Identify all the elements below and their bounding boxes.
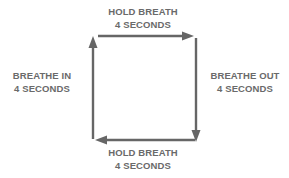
- step-action: HOLD BREATH: [108, 6, 178, 19]
- step-action: BREATHE OUT: [210, 70, 279, 83]
- arrow-up-icon: [89, 36, 98, 48]
- arrow-left-icon: [95, 136, 107, 145]
- step-label-right: BREATHE OUT 4 SECONDS: [210, 70, 279, 95]
- step-action: HOLD BREATH: [108, 147, 178, 160]
- step-label-bottom: HOLD BREATH 4 SECONDS: [108, 147, 178, 172]
- step-action: BREATHE IN: [13, 70, 71, 83]
- step-duration: 4 SECONDS: [108, 160, 178, 173]
- step-duration: 4 SECONDS: [13, 83, 71, 96]
- arrow-right-icon: [182, 32, 194, 41]
- step-duration: 4 SECONDS: [108, 19, 178, 32]
- step-label-top: HOLD BREATH 4 SECONDS: [108, 6, 178, 31]
- step-label-left: BREATHE IN 4 SECONDS: [13, 70, 71, 95]
- step-duration: 4 SECONDS: [210, 83, 279, 96]
